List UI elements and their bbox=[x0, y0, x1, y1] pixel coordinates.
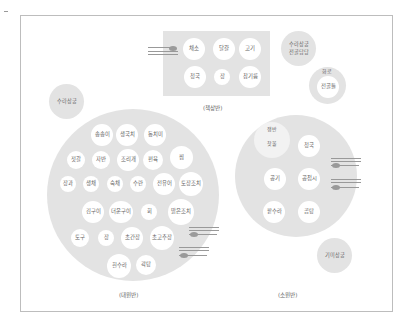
dish: 채소 bbox=[183, 38, 205, 60]
dish: 청국 bbox=[184, 66, 206, 88]
dish: 초간장 bbox=[121, 227, 143, 249]
dish: 찜 bbox=[170, 146, 193, 169]
attendant-surasanggung-jeongol: 수라상궁전골담당 bbox=[281, 31, 316, 66]
dish: 팥수라 bbox=[263, 201, 285, 223]
corner-mark bbox=[4, 11, 8, 12]
dish: 젓갈 bbox=[67, 151, 85, 169]
dish: 조리개 bbox=[117, 149, 139, 171]
dish: 청국 bbox=[298, 135, 320, 157]
dish: 장 bbox=[98, 230, 114, 246]
spoon-and-chopsticks-icon bbox=[331, 178, 363, 188]
dish: 회 bbox=[141, 204, 157, 220]
jeongol-pan: 전골틀 bbox=[317, 76, 339, 98]
dish: 참기름 bbox=[239, 66, 261, 88]
dish: 숙채 bbox=[107, 176, 123, 192]
tray-item: 찻물 bbox=[267, 139, 277, 146]
dish: 생국치 bbox=[116, 124, 138, 146]
dish: 더운구이 bbox=[109, 201, 133, 223]
dish: 공접시 bbox=[298, 168, 320, 190]
dish: 공기 bbox=[264, 168, 286, 190]
dish: 곽탕 bbox=[136, 255, 156, 275]
dish: 맑은조치 bbox=[168, 199, 194, 225]
tray-label: 쟁반 bbox=[267, 125, 277, 132]
dish: 장 bbox=[214, 69, 230, 85]
dish: 편육 bbox=[143, 150, 163, 170]
hwaro-label: 화로 bbox=[322, 67, 332, 74]
dish: 흰수라 bbox=[107, 254, 131, 278]
sowonban-label: (소원반) bbox=[278, 291, 297, 299]
dish: 김구이 bbox=[82, 201, 104, 223]
dish: 토장조치 bbox=[179, 172, 203, 196]
dish: 달걀 bbox=[213, 38, 235, 60]
attendant-line1: 수라상궁 bbox=[289, 41, 309, 47]
daewonban-label: (대원반) bbox=[119, 291, 138, 299]
dish: 곰탕 bbox=[298, 201, 320, 223]
attendant-gimisanggung: 기미상궁 bbox=[317, 238, 352, 273]
dish: 자반 bbox=[92, 151, 110, 169]
dish: 동치미 bbox=[144, 124, 166, 146]
spoon-and-chopsticks-icon bbox=[189, 226, 221, 236]
dish: 고기 bbox=[239, 38, 261, 60]
spoon-and-chopsticks-icon bbox=[179, 246, 211, 256]
dish: 장과 bbox=[60, 176, 76, 192]
chaeksangban-label: (책상반) bbox=[203, 104, 222, 112]
dish: 생채 bbox=[83, 176, 99, 192]
dish: 초고추장 bbox=[150, 226, 174, 250]
spoon-and-chopsticks-icon bbox=[331, 157, 363, 167]
spoon-and-chopsticks-icon bbox=[148, 46, 180, 56]
attendant-surasanggung: 수라상궁 bbox=[49, 84, 84, 119]
dish: 토구 bbox=[71, 229, 89, 247]
attendant-line2: 전골담당 bbox=[289, 49, 309, 55]
dish: 전유어 bbox=[153, 173, 175, 195]
sowonban-table bbox=[235, 115, 357, 237]
dish: 수란 bbox=[130, 176, 146, 192]
dish: 송송이 bbox=[91, 124, 113, 146]
